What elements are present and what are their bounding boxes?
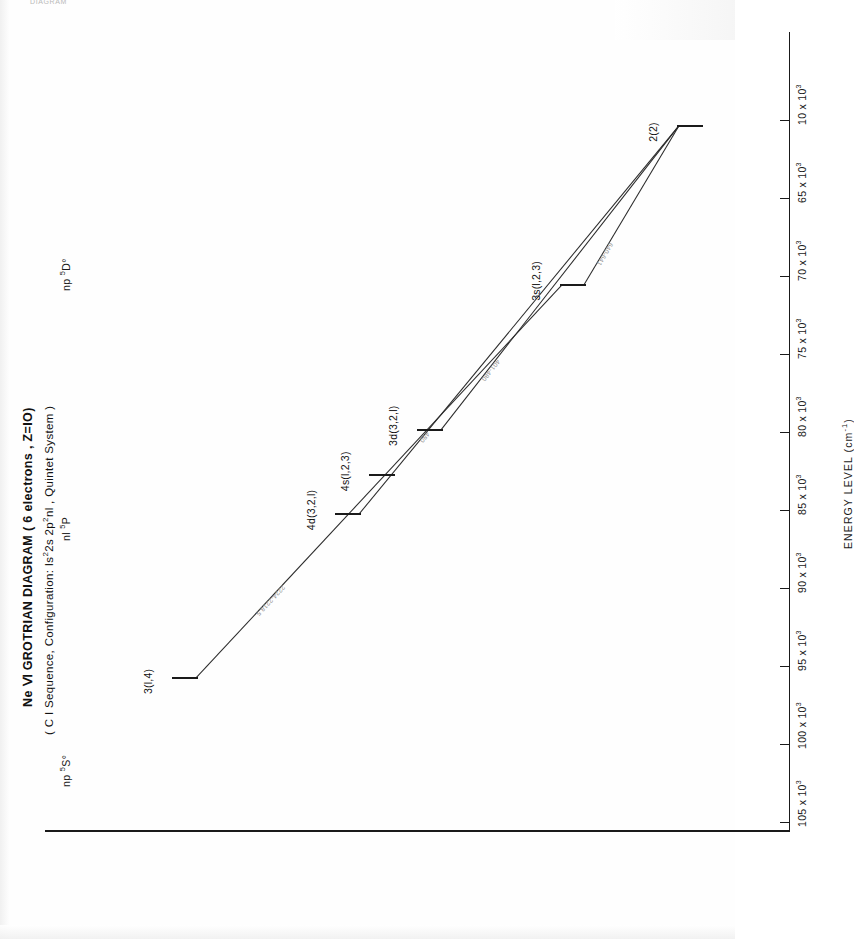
tick-label-exponent: 3 [795,702,802,706]
energy-axis-title: ENERGY LEVEL (cm-1) [840,418,854,549]
tick-label-exponent: 3 [795,630,802,634]
energy-level-bar-3s [560,284,586,286]
axis-tick [780,666,789,667]
axis-title-text: ENERGY LEVEL (cm [842,432,854,549]
axis-title-exponent: -1 [840,423,849,432]
axis-tick [780,354,789,355]
tick-label-mantissa: 75 x 10 [796,322,808,359]
energy-level-label-3d: 3d(3,2,l) [387,406,399,446]
energy-level-bar-3d [417,429,443,431]
axis-tick [780,198,789,199]
axis-tick [780,510,789,511]
axis-tick-label: 70 x 103 [795,240,808,281]
tick-label-exponent: 3 [795,552,802,556]
axis-tick [780,120,789,121]
energy-level-label-3s: 3s(l,2,3) [530,261,542,301]
tick-label-mantissa: 85 x 10 [796,478,808,515]
energy-level-label-4s: 4s(l,2,3) [339,451,351,491]
tick-label-mantissa: 95 x 10 [796,634,808,671]
transition-line-ground-3d [441,126,679,430]
axis-tick-label: 95 x 103 [795,630,808,671]
axis-tick-label: 85 x 103 [795,474,808,515]
tick-label-exponent: 3 [795,780,802,784]
tick-label-exponent: 3 [795,84,802,88]
tick-label-exponent: 3 [795,318,802,322]
energy-level-bar-ground [677,125,703,127]
axis-tick-label: 80 x 103 [795,396,808,437]
tick-label-mantissa: 70 x 10 [796,244,808,281]
energy-level-label-3p: 3(l,4) [142,669,154,694]
axis-tick [780,744,789,745]
axis-title-close: ) [842,418,854,423]
baseline-axis-line [789,32,790,832]
tick-label-mantissa: 10 x 10 [796,88,808,125]
axis-tick-label: 105 x 103 [795,780,808,827]
energy-level-label-4d: 4d(3,2,l) [305,490,317,530]
axis-tick [780,276,789,277]
tick-label-exponent: 3 [795,474,802,478]
axis-tick [780,822,789,823]
tick-label-mantissa: 65 x 10 [796,166,808,203]
energy-level-label-ground: 2(2) [647,122,659,141]
tick-label-mantissa: 90 x 10 [796,556,808,593]
axis-tick-label: 90 x 103 [795,552,808,593]
transition-line-ground-4d [359,126,679,514]
axis-tick-label: 65 x 103 [795,162,808,203]
energy-level-bar-4d [335,513,361,515]
axis-tick-label: 10 x 103 [795,84,808,125]
tick-label-exponent: 3 [795,396,802,400]
tick-label-mantissa: 100 x 10 [796,706,808,749]
axis-tick [780,588,789,589]
tick-label-mantissa: 80 x 10 [796,400,808,437]
energy-level-bar-4s [369,474,395,476]
axis-tick-label: 100 x 103 [795,702,808,749]
energy-level-bar-3p [172,677,198,679]
tick-label-exponent: 3 [795,162,802,166]
axis-tick-label: 75 x 103 [795,318,808,359]
transition-line-3s-3p [196,285,562,678]
axis-tick [780,432,789,433]
tick-label-mantissa: 105 x 10 [796,784,808,827]
tick-label-exponent: 3 [795,240,802,244]
